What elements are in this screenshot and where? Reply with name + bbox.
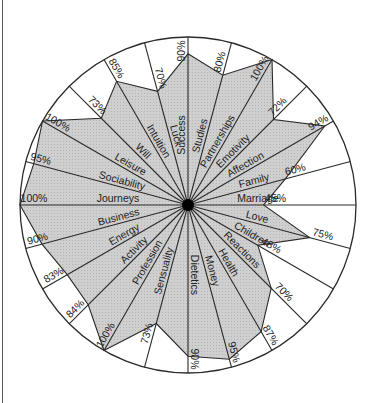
- value-label-activity: 84%: [63, 297, 86, 320]
- radar-chart: SuccessStudiesPartnershipsEmotivityAffec…: [0, 0, 374, 403]
- center-dot: [182, 199, 194, 211]
- value-label-luck: 70%: [153, 66, 170, 89]
- value-label-marriage: 45%: [265, 192, 286, 204]
- category-label-journeys: Journeys: [97, 192, 140, 204]
- value-label-studies: 80%: [211, 50, 228, 73]
- value-label-intuition: 85%: [107, 56, 128, 80]
- value-label-health: 87%: [261, 323, 282, 347]
- value-label-success: 90%: [175, 40, 187, 61]
- value-label-reactions: 70%: [273, 280, 296, 303]
- category-label-dietetics: Dietetics: [189, 255, 201, 295]
- value-label-love: 75%: [311, 225, 334, 242]
- value-label-journeys: 100%: [21, 192, 48, 204]
- value-label-dietetics: 90%: [189, 348, 201, 369]
